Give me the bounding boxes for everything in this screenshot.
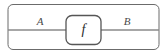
string-diagram-canvas: A B f — [0, 0, 167, 56]
wire-label-b: B — [124, 15, 131, 27]
wire-label-a: A — [36, 15, 44, 27]
string-diagram-svg: A B f — [0, 0, 167, 56]
